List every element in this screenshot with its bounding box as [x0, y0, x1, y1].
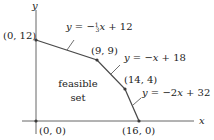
vertex-9-9	[95, 58, 98, 61]
vertex-0-0	[34, 119, 37, 122]
vertex-16-0	[137, 119, 140, 122]
point-label-0-0: (0, 0)	[39, 125, 66, 136]
y-axis-label: y	[31, 0, 38, 11]
point-label-0-12: (0, 12)	[3, 30, 36, 41]
leader-line-1	[67, 40, 74, 50]
equation-line-3: y = −2x + 32	[141, 87, 210, 98]
equation-line-1: y = −13x + 12	[65, 21, 133, 33]
leader-line-2	[111, 65, 120, 74]
region-label-line2: set	[70, 92, 85, 103]
region-label-line1: feasible	[58, 78, 98, 89]
x-axis-label: x	[199, 115, 205, 126]
point-label-9-9: (9, 9)	[91, 45, 118, 56]
vertex-14-4	[123, 87, 126, 90]
point-label-14-4: (14, 4)	[124, 74, 157, 85]
point-label-16-0: (16, 0)	[122, 125, 155, 136]
leader-line-3	[133, 98, 141, 105]
feasible-set-diagram: x y (0, 12) (9, 9) (14, 4) (16, 0) (0, 0…	[0, 0, 214, 140]
equation-line-2: y = −x + 18	[123, 52, 186, 63]
